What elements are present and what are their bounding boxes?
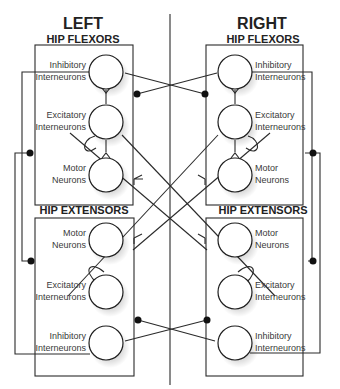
right-extensors-inhibitory-label-line-2: Interneurons [255, 343, 306, 353]
left-extensor-crossed-inhibitory-synapse [135, 317, 142, 324]
right-extensors-motor-neuron [218, 223, 252, 257]
left-ext-motor-fork-synapse [134, 234, 142, 244]
left-extensors-motor-neuron [89, 223, 123, 257]
right-flexors-inhibitory-neuron [218, 55, 252, 89]
left-flexors-motor-neuron [89, 158, 123, 192]
right-extensors-motor-label-line-2: Neurons [255, 240, 290, 250]
right-extensors-motor-label-line-1: Motor [255, 228, 278, 238]
right-flex-motor-fork-synapse [198, 175, 205, 185]
left-flexors-excitatory-neuron [89, 105, 123, 139]
right-side-title: RIGHT [237, 15, 287, 32]
right-extensor-inhibitory-synapse [310, 258, 317, 265]
right-extensors-excitatory-label-line-2: Interneurons [255, 292, 306, 302]
diagram-canvas: LEFT RIGHT HIP FLEXORS HIP FLEXORS HIP E… [0, 0, 340, 389]
left-flexor-inhibitory-synapse [27, 150, 34, 157]
left-flexor-crossed-inhibitory-synapse [134, 91, 141, 98]
left-extensors-excitatory-label-line-2: Interneurons [35, 292, 86, 302]
left-extensors-inhibitory-label-line-1: Inhibitory [49, 331, 86, 341]
left-flexors-inhibitory-label-line-2: Interneurons [35, 72, 86, 82]
right-flexors-motor-label-line-1: Motor [255, 163, 278, 173]
right-extensors-excitatory-neuron [218, 275, 252, 309]
right-flexors-title: HIP FLEXORS [226, 33, 299, 45]
left-flexors-excitatory-label-line-2: Interneurons [35, 122, 86, 132]
left-flex-motor-fork-synapse [134, 175, 143, 185]
left-extensors-inhibitory-label-line-2: Interneurons [35, 343, 86, 353]
cpg-circuit-diagram: LEFT RIGHT HIP FLEXORS HIP FLEXORS HIP E… [0, 0, 340, 389]
right-extensors-inhibitory-neuron [218, 326, 252, 360]
left-extensors-motor-label-line-2: Neurons [52, 240, 87, 250]
left-extensors-inhibitory-neuron [89, 326, 123, 360]
left-extensors-excitatory-neuron [89, 275, 123, 309]
right-extensors-excitatory-label-line-1: Excitatory [255, 280, 295, 290]
right-flexors-motor-neuron [218, 158, 252, 192]
left-extensors-title: HIP EXTENSORS [39, 204, 128, 216]
right-extensor-crossed-inhibitory-synapse [204, 317, 211, 324]
left-flexors-excitatory-label-line-1: Excitatory [46, 110, 86, 120]
cross-wire-right-inh-ext-to-left [138, 320, 215, 341]
left-extensors-excitatory-label-line-1: Excitatory [46, 280, 86, 290]
right-flexor-inhibitory-synapse [310, 150, 317, 157]
right-flexors-excitatory-neuron [218, 105, 252, 139]
left-extensor-inhibitory-synapse [28, 258, 35, 265]
right-flexors-excitatory-label-line-2: Interneurons [255, 122, 306, 132]
right-flexors-inhibitory-label-line-2: Interneurons [255, 72, 306, 82]
right-flexors-excitatory-label-line-1: Excitatory [255, 110, 295, 120]
left-flexors-inhibitory-neuron [89, 55, 123, 89]
left-side-title: LEFT [63, 15, 103, 32]
left-flexors-motor-label-line-1: Motor [63, 163, 86, 173]
right-flexors-motor-label-line-2: Neurons [255, 175, 290, 185]
right-flexor-crossed-inhibitory-synapse [202, 91, 209, 98]
right-flexors-inhibitory-label-line-1: Inhibitory [255, 60, 292, 70]
left-flexors-motor-label-line-2: Neurons [52, 175, 87, 185]
left-extensors-motor-label-line-1: Motor [63, 228, 86, 238]
right-extensors-inhibitory-label-line-1: Inhibitory [255, 331, 292, 341]
left-flexors-title: HIP FLEXORS [46, 33, 119, 45]
left-flexors-inhibitory-label-line-1: Inhibitory [49, 60, 86, 70]
right-extensors-title: HIP EXTENSORS [218, 204, 307, 216]
